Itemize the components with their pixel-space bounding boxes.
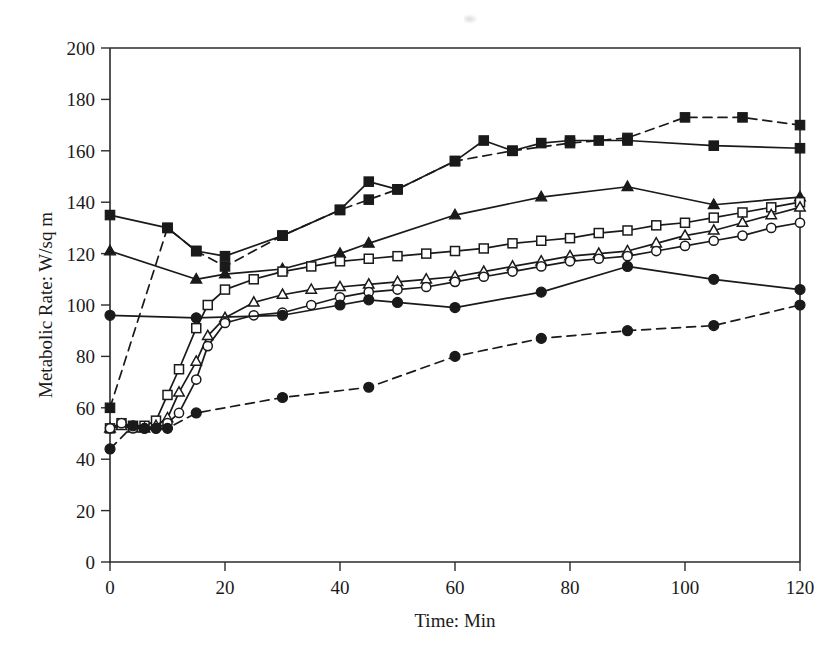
filled-circle-marker: [536, 287, 546, 297]
open-circle-marker: [450, 277, 459, 286]
open-square-marker: [738, 208, 747, 217]
filled-square-marker: [105, 403, 114, 412]
filled-circle-marker: [278, 310, 288, 320]
x-tick-label: 60: [446, 577, 465, 598]
open-square-marker: [278, 267, 287, 276]
open-square-marker: [594, 229, 603, 238]
open-circle-marker: [117, 419, 126, 428]
filled-square-marker: [709, 141, 718, 150]
x-tick-label: 20: [216, 577, 235, 598]
filled-square-marker: [680, 113, 689, 122]
series-filled-triangle-solid: [105, 181, 806, 283]
data-series-group: [105, 113, 806, 454]
chart-figure: 0204060801001201401601802000204060801001…: [0, 0, 833, 653]
open-square-marker: [221, 285, 230, 294]
filled-circle-marker: [105, 310, 115, 320]
x-tick-label: 40: [331, 577, 350, 598]
open-square-marker: [681, 218, 690, 227]
open-square-marker: [249, 275, 258, 284]
open-square-marker: [479, 244, 488, 253]
open-triangle-marker: [174, 387, 184, 396]
open-circle-marker: [220, 318, 229, 327]
open-circle-marker: [767, 223, 776, 232]
open-circle-marker: [422, 282, 431, 291]
filled-square-marker: [335, 205, 344, 214]
y-axis-title: Metabolic Rate: W/sq m: [35, 212, 56, 398]
open-square-marker: [652, 221, 661, 230]
open-square-marker: [566, 234, 575, 243]
filled-triangle-marker: [105, 245, 116, 255]
filled-square-marker: [565, 138, 574, 147]
filled-circle-marker: [128, 421, 138, 431]
open-square-marker: [336, 257, 345, 266]
open-square-marker: [192, 324, 201, 333]
filled-circle-marker: [623, 261, 633, 271]
open-circle-marker: [174, 408, 183, 417]
y-tick-label: 0: [86, 552, 96, 573]
open-circle-marker: [652, 246, 661, 255]
y-tick-label: 60: [76, 398, 95, 419]
y-tick-label: 160: [67, 141, 96, 162]
y-tick-label: 80: [76, 346, 95, 367]
filled-square-marker: [278, 231, 287, 240]
filled-circle-marker: [795, 285, 805, 295]
y-tick-label: 100: [67, 295, 96, 316]
filled-square-marker: [450, 156, 459, 165]
filled-square-marker: [479, 136, 488, 145]
open-circle-marker: [192, 375, 201, 384]
open-square-marker: [393, 252, 402, 261]
open-circle-marker: [479, 272, 488, 281]
y-tick-label: 120: [67, 244, 96, 265]
filled-circle-marker: [623, 326, 633, 336]
series-line-filled-circle-dashed: [110, 305, 800, 449]
x-tick-label: 80: [561, 577, 580, 598]
filled-circle-marker: [335, 300, 345, 310]
open-circle-marker: [105, 424, 114, 433]
filled-square-marker: [623, 133, 632, 142]
filled-circle-marker: [364, 382, 374, 392]
open-square-marker: [203, 301, 212, 310]
open-square-marker: [175, 365, 184, 374]
filled-square-marker: [192, 246, 201, 255]
filled-circle-marker: [191, 408, 201, 418]
filled-triangle-marker: [622, 181, 633, 191]
open-square-marker: [364, 254, 373, 263]
y-tick-label: 200: [67, 38, 96, 59]
open-square-marker: [422, 249, 431, 258]
scan-artifact-speck: [464, 14, 478, 24]
open-circle-marker: [203, 342, 212, 351]
open-circle-marker: [508, 267, 517, 276]
filled-circle-marker: [709, 321, 719, 331]
open-square-marker: [623, 226, 632, 235]
y-tick-label: 140: [67, 192, 96, 213]
open-circle-marker: [594, 254, 603, 263]
open-square-marker: [307, 262, 316, 271]
filled-circle-marker: [536, 333, 546, 343]
y-tick-label: 180: [67, 89, 96, 110]
series-filled-circle-dashed: [105, 300, 805, 454]
open-square-marker: [163, 390, 172, 399]
open-circle-marker: [738, 231, 747, 240]
filled-square-marker: [795, 144, 804, 153]
x-tick-label: 120: [786, 577, 815, 598]
filled-square-marker: [508, 146, 517, 155]
filled-circle-marker: [105, 444, 115, 454]
open-square-marker: [709, 213, 718, 222]
filled-circle-marker: [364, 295, 374, 305]
open-triangle-marker: [191, 356, 201, 365]
filled-circle-marker: [140, 423, 150, 433]
x-axis-title: Time: Min: [414, 610, 496, 631]
series-filled-square-solid: [105, 136, 804, 261]
open-circle-marker: [537, 262, 546, 271]
filled-circle-marker: [709, 274, 719, 284]
filled-square-marker: [393, 185, 402, 194]
open-circle-marker: [680, 241, 689, 250]
filled-circle-marker: [151, 423, 161, 433]
open-circle-marker: [393, 285, 402, 294]
open-circle-marker: [307, 300, 316, 309]
filled-square-marker: [220, 251, 229, 260]
filled-circle-marker: [450, 303, 460, 313]
filled-circle-marker: [278, 393, 288, 403]
x-tick-label: 0: [105, 577, 115, 598]
series-filled-square-dashed: [105, 113, 804, 413]
